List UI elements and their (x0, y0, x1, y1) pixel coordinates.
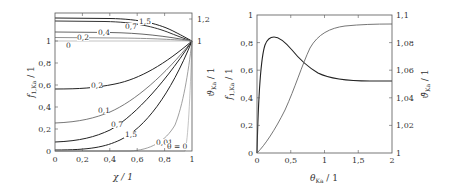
left-chart: 1,5 0,7 0,4 0,2 0 0,2 0,1 0,7 1,5 0,01 θ… (26, 13, 217, 182)
y-right-tick-label: 1,06 (396, 66, 414, 75)
y-tick-label: 0 (46, 147, 51, 156)
y-tick-label: 0,8 (240, 39, 253, 48)
left-chart-y-axis-label: f1,Ka / 1 (26, 66, 37, 99)
y-right-tick-label: 1,08 (396, 39, 414, 48)
x-tick-label: 0,8 (158, 155, 171, 164)
y-right-tick-label: 1 (396, 149, 401, 158)
curve-f-0-7 (55, 41, 192, 142)
figure: 1,5 0,7 0,4 0,2 0 0,2 0,1 0,7 1,5 0,01 θ… (0, 0, 452, 191)
label-f-0-7: 0,7 (111, 120, 123, 129)
right-chart-frame (257, 15, 392, 153)
y-right-tick-label: 1,2 (197, 15, 210, 24)
x-tick-label: 0,6 (131, 155, 144, 164)
label-f-1-5: 1,5 (125, 130, 137, 139)
y-tick-label: 1 (46, 37, 51, 46)
y-right-tick-label: 1 (197, 37, 202, 46)
x-tick-label: 0,4 (103, 155, 116, 164)
y-tick-label: 0,4 (38, 103, 51, 112)
y-right-tick-label: 1,1 (396, 11, 409, 20)
y-tick-label: 0,2 (240, 121, 253, 130)
curve-f1-ka (257, 37, 392, 153)
x-tick-label: 0 (254, 156, 259, 165)
right-chart-curves (257, 24, 392, 153)
left-chart-y-right-axis-label: ϑKa / 1 (206, 68, 217, 97)
y-tick-label: 0,4 (240, 94, 253, 103)
left-chart-curves (55, 18, 192, 151)
y-right-tick-label: 1,04 (396, 94, 414, 103)
right-chart: 0 0,5 1 1,5 2 0 0,2 0,4 0,6 0,8 1 1 1,02 (224, 11, 431, 184)
y-tick-label: 0,2 (38, 125, 51, 134)
label-theta-0-top: 0 (66, 41, 71, 50)
curve-theta-bar-ka (257, 24, 392, 153)
label-theta-1-5-top: 1,5 (139, 17, 151, 26)
y-tick-label: 0,6 (240, 66, 253, 75)
right-chart-y-right-axis-label: ϑ̄Ka / 1 (420, 70, 431, 99)
x-tick-label: 2 (389, 156, 394, 165)
right-chart-y-axis-label: f1,Ka / 1 (224, 68, 235, 101)
left-chart-x-axis-label: χ / 1 (112, 172, 133, 182)
y-tick-label: 0,6 (38, 81, 51, 90)
label-theta-0-4-top: 0,4 (98, 28, 110, 37)
y-tick-label: 0 (248, 149, 253, 158)
x-tick-label: 0,2 (76, 155, 89, 164)
label-theta-0-2-top: 0,2 (77, 33, 89, 42)
x-tick-label: 0,5 (284, 156, 297, 165)
right-chart-x-axis-label: θKa / 1 (310, 173, 338, 184)
label-f-0-2: 0,2 (91, 81, 103, 90)
x-tick-label: 1,5 (352, 156, 365, 165)
label-theta-0-7-top: 0,7 (125, 22, 137, 31)
label-f-0-1: 0,1 (98, 106, 110, 115)
x-tick-label: 1 (322, 156, 327, 165)
y-right-tick-label: 1,02 (396, 121, 414, 130)
y-tick-label: 0,8 (38, 59, 51, 68)
right-chart-y-ticks-right: 1 1,02 1,04 1,06 1,08 1,1 (389, 11, 414, 158)
x-tick-label: 1 (189, 155, 194, 164)
label-f-theta-0: θ = 0 (167, 142, 188, 151)
x-tick-label: 0 (52, 155, 57, 164)
y-tick-label: 1 (248, 11, 253, 20)
